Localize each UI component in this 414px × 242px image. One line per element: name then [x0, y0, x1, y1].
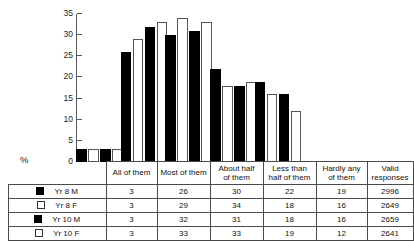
y-axis-tick-label: 20 [51, 71, 73, 81]
y-axis-tick-label: 5 [51, 135, 73, 145]
table-cell: 3 [106, 185, 157, 199]
table-cell: 19 [263, 227, 316, 241]
table-column-header: Most of them [157, 162, 210, 185]
legend-entry: Yr 10 M [9, 213, 107, 227]
table-column-header-line2: half of them [264, 173, 316, 183]
legend-entry: Yr 10 F [9, 227, 107, 241]
table-column-header-line1: Less than [264, 164, 316, 174]
bar-group [256, 14, 301, 162]
table-column-header-line1: About half [211, 164, 263, 174]
data-table-wrapper: All of themMost of themAbout halfof them… [8, 161, 406, 241]
table-column-header-line2: responses [368, 173, 413, 183]
legend-entry-label: Yr 8 M [46, 187, 78, 197]
bar [133, 39, 144, 162]
table-header-row: All of themMost of themAbout halfof them… [9, 162, 414, 185]
table-cell: 18 [263, 199, 316, 213]
table-cell: 29 [157, 199, 210, 213]
y-axis-tick-label: 10 [51, 114, 73, 124]
y-axis-tick-label: 15 [51, 93, 73, 103]
table-cell: 33 [210, 227, 263, 241]
table-cell: 22 [263, 185, 316, 199]
table-column-header-line1: All of them [107, 168, 157, 178]
table-cell: 32 [157, 213, 210, 227]
table-column-header-line2: of them [317, 173, 367, 183]
table-row: Yr 10 M3323118162659 [9, 213, 414, 227]
table-body: Yr 8 M3263022192996Yr 8 F3293418162649Yr… [9, 185, 414, 241]
bar [210, 69, 221, 162]
table-cell: 2649 [367, 199, 413, 213]
table-column-header: Hardly anyof them [316, 162, 367, 185]
table-cell: 19 [316, 185, 367, 199]
legend-entry-label: Yr 10 M [44, 215, 80, 225]
legend-entry: Yr 8 M [9, 185, 107, 199]
table-cell: 26 [157, 185, 210, 199]
bar [165, 35, 176, 162]
table-cell: 2641 [367, 227, 413, 241]
table-column-header-line1: Most of them [158, 168, 210, 178]
table-cell: 33 [157, 227, 210, 241]
data-table: All of themMost of themAbout halfof them… [8, 161, 414, 241]
table-cell: 12 [316, 227, 367, 241]
table-cell: 18 [263, 213, 316, 227]
bar [279, 94, 290, 162]
bar [177, 18, 188, 162]
table-column-header: Validresponses [367, 162, 413, 185]
table-corner-cell [9, 162, 107, 185]
y-axis-tick-label: 35 [51, 8, 73, 18]
legend-entry: Yr 8 F [9, 199, 107, 213]
bar [255, 82, 266, 162]
y-axis-tick-label: 25 [51, 50, 73, 60]
bar [222, 86, 233, 162]
legend-entry-label: Yr 8 F [47, 201, 77, 211]
table-row: Yr 10 F3333319122641 [9, 227, 414, 241]
table-cell: 2996 [367, 185, 413, 199]
table-cell: 3 [106, 227, 157, 241]
bar-group [166, 14, 211, 162]
bar [291, 111, 302, 162]
table-row: Yr 8 M3263022192996 [9, 185, 414, 199]
bar [145, 27, 156, 162]
table-row: Yr 8 F3293418162649 [9, 199, 414, 213]
table-column-header: About halfof them [210, 162, 263, 185]
table-cell: 30 [210, 185, 263, 199]
bar [234, 86, 245, 162]
table-column-header-line1: Valid [368, 164, 413, 174]
table-column-header: All of them [106, 162, 157, 185]
bar [189, 31, 200, 162]
table-cell: 16 [316, 213, 367, 227]
bar [121, 52, 132, 162]
bar-group [77, 14, 122, 162]
table-cell: 2659 [367, 213, 413, 227]
table-column-header: Less thanhalf of them [263, 162, 316, 185]
bar [267, 94, 278, 162]
legend-entry-label: Yr 10 F [45, 229, 79, 239]
table-cell: 34 [210, 199, 263, 213]
table-column-header-line1: Hardly any [317, 164, 367, 174]
table-cell: 3 [106, 213, 157, 227]
bar-chart: 35302520151050 % [0, 0, 413, 162]
legend-swatch-icon [36, 187, 44, 195]
table-cell: 16 [316, 199, 367, 213]
table-cell: 3 [106, 199, 157, 213]
plot-bars [77, 14, 345, 162]
y-axis-tick-label: 30 [51, 29, 73, 39]
legend-swatch-icon [35, 229, 43, 237]
legend-swatch-icon [37, 201, 45, 209]
legend-swatch-icon [34, 215, 42, 223]
table-cell: 31 [210, 213, 263, 227]
bar-group [211, 14, 256, 162]
bar-group [122, 14, 167, 162]
table-column-header-line2: of them [211, 173, 263, 183]
